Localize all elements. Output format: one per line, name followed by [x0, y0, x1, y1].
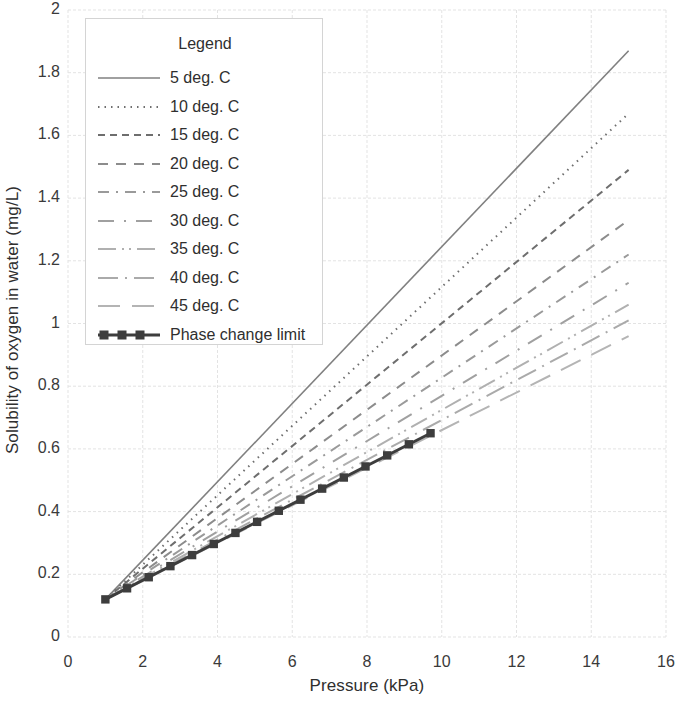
legend-entry-label: Phase change limit [170, 320, 305, 350]
legend-line-swatch [96, 177, 162, 207]
phase-change-limit-line [105, 433, 430, 599]
phase-change-limit-marker [210, 540, 218, 548]
phase-change-limit-marker [145, 573, 153, 581]
phase-change-limit-marker [361, 462, 369, 470]
legend-line-swatch [96, 291, 162, 321]
legend-line-swatch [96, 92, 162, 122]
phase-change-limit-marker [296, 495, 304, 503]
legend-entry-label: 30 deg. C [170, 206, 239, 236]
legend-entry-label: 45 deg. C [170, 291, 239, 321]
phase-change-limit-marker [383, 451, 391, 459]
legend-title: Legend [86, 35, 324, 53]
legend-entry-label: 5 deg. C [170, 63, 230, 93]
legend-line-swatch [96, 234, 162, 264]
phase-change-limit-marker [188, 551, 196, 559]
phase-change-limit-series [101, 429, 435, 604]
phase-change-limit-marker [166, 562, 174, 570]
phase-change-limit-marker [426, 429, 434, 437]
phase-change-limit-marker [231, 529, 239, 537]
legend-line-swatch [96, 63, 162, 93]
legend-line-swatch [96, 206, 162, 236]
legend-entry-label: 20 deg. C [170, 149, 239, 179]
phase-change-limit-marker [340, 473, 348, 481]
legend-entry-label: 10 deg. C [170, 92, 239, 122]
legend-entry: 35 deg. C [96, 234, 324, 264]
legend-entry: 30 deg. C [96, 206, 324, 236]
legend-entry: 10 deg. C [96, 92, 324, 122]
legend-entry: Phase change limit [96, 320, 324, 350]
legend-line-swatch [96, 320, 162, 350]
legend-line-swatch [96, 120, 162, 150]
phase-change-limit-marker [253, 518, 261, 526]
phase-change-limit-marker [405, 440, 413, 448]
legend-entry: 20 deg. C [96, 149, 324, 179]
legend: Legend 5 deg. C10 deg. C15 deg. C20 deg.… [85, 18, 323, 345]
phase-change-limit-marker [101, 595, 109, 603]
legend-line-swatch [96, 149, 162, 179]
legend-entry-label: 25 deg. C [170, 177, 239, 207]
legend-entry: 15 deg. C [96, 120, 324, 150]
phase-change-limit-marker [275, 507, 283, 515]
legend-entry: 45 deg. C [96, 291, 324, 321]
legend-entry: 5 deg. C [96, 63, 324, 93]
legend-entry-label: 40 deg. C [170, 263, 239, 293]
legend-entry-label: 35 deg. C [170, 234, 239, 264]
legend-entry: 25 deg. C [96, 177, 324, 207]
phase-change-limit-marker [123, 584, 131, 592]
phase-change-limit-marker [318, 484, 326, 492]
legend-entry: 40 deg. C [96, 263, 324, 293]
legend-line-swatch [96, 263, 162, 293]
legend-entry-label: 15 deg. C [170, 120, 239, 150]
chart-container: Solubility of oxygen in water (mg/L) Pre… [0, 0, 680, 710]
